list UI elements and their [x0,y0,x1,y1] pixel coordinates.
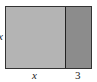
width-label-3: 3 [75,70,81,81]
width-label-x: x [32,70,37,81]
height-label: x [0,31,3,42]
strip-region [65,7,91,68]
square-region [6,7,65,68]
